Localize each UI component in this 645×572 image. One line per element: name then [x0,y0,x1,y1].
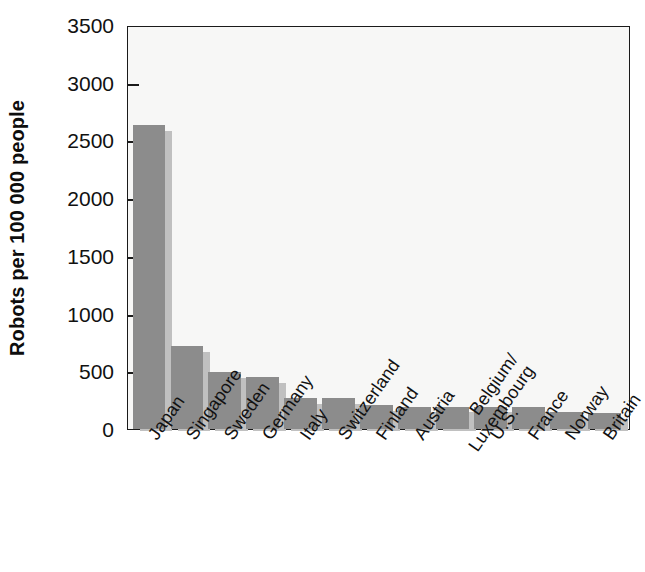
y-axis-tick-label: 1000 [67,303,114,327]
y-axis-title-container: Robots per 100 000 people [0,26,34,430]
y-axis-tick-label: 500 [79,360,114,384]
y-axis-tick-label: 1500 [67,245,114,269]
y-axis-tick-mark [128,84,139,86]
y-axis-tick-labels: 0500100015002000250030003500 [34,0,122,572]
bar [133,125,166,429]
y-axis-tick-label: 0 [102,418,114,442]
y-axis-title: Robots per 100 000 people [6,100,29,356]
y-axis-tick-label: 3500 [67,14,114,38]
y-axis-tick-label: 2000 [67,187,114,211]
y-axis-tick-label: 3000 [67,72,114,96]
x-axis-tick-labels: JapanSingaporeSwedenGermanyItalySwitzerl… [127,432,630,572]
y-axis-tick-label: 2500 [67,129,114,153]
